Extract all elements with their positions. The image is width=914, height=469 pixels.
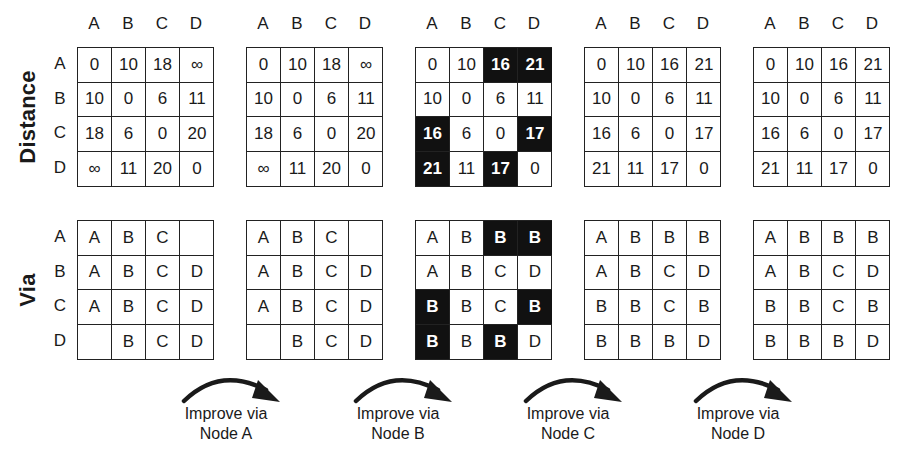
- via-cell: B: [687, 290, 721, 325]
- distance-cell: 10: [754, 83, 788, 118]
- via-cell: C: [146, 221, 180, 256]
- distance-cell: 6: [315, 83, 349, 118]
- curved-arrow-icon: [352, 368, 462, 408]
- distance-cell: 11: [450, 152, 484, 187]
- via-cell: A: [416, 221, 450, 256]
- via-matrix-stage-2: ABCABCDABCDBCD: [246, 220, 383, 360]
- step-label-line1: Improve via: [338, 404, 458, 424]
- via-cell: B: [281, 325, 315, 360]
- curved-arrow-icon: [522, 368, 632, 408]
- distance-cell: 17: [822, 152, 856, 187]
- column-header: D: [179, 14, 213, 34]
- column-header: B: [787, 14, 821, 34]
- column-header: A: [246, 14, 280, 34]
- distance-cell: 6: [146, 83, 180, 118]
- curved-arrow-icon: [180, 368, 290, 408]
- via-section-label: Via: [15, 230, 41, 350]
- dist-row-header: C: [50, 123, 70, 143]
- distance-cell: 11: [180, 83, 214, 118]
- distance-cell: 0: [180, 152, 214, 187]
- via-cell: B: [112, 256, 146, 291]
- via-cell: A: [754, 221, 788, 256]
- distance-cell: 6: [450, 117, 484, 152]
- column-header: B: [111, 14, 145, 34]
- via-cell: A: [754, 256, 788, 291]
- via-matrix-stage-1: ABCABCDABCDBCD: [77, 220, 214, 360]
- via-cell: B: [450, 221, 484, 256]
- via-cell: B: [450, 256, 484, 291]
- via-cell: B: [416, 325, 450, 360]
- via-cell: C: [484, 256, 518, 291]
- via-cell: B: [754, 325, 788, 360]
- via-cell: B: [788, 290, 822, 325]
- distance-cell: 0: [281, 83, 315, 118]
- distance-cell: 10: [416, 83, 450, 118]
- distance-cell: 20: [146, 152, 180, 187]
- via-cell: B: [112, 221, 146, 256]
- via-cell: [349, 221, 383, 256]
- via-cell: D: [518, 325, 552, 360]
- via-cell: B: [112, 290, 146, 325]
- distance-cell: 10: [78, 83, 112, 118]
- via-row-header: B: [50, 262, 70, 282]
- distance-cell: 6: [822, 83, 856, 118]
- column-header: D: [686, 14, 720, 34]
- via-cell: B: [687, 221, 721, 256]
- via-cell: B: [822, 325, 856, 360]
- via-cell: B: [484, 221, 518, 256]
- column-header: C: [314, 14, 348, 34]
- distance-cell: 16: [754, 117, 788, 152]
- distance-cell: 17: [856, 117, 890, 152]
- distance-cell: 6: [484, 83, 518, 118]
- via-cell: B: [788, 221, 822, 256]
- distance-matrix-stage-3: 01016211006111660172111170: [415, 47, 552, 187]
- distance-cell: ∞: [180, 48, 214, 83]
- curved-arrow-icon: [692, 368, 802, 408]
- distance-cell: 11: [619, 152, 653, 187]
- via-cell: B: [653, 325, 687, 360]
- via-cell: B: [822, 221, 856, 256]
- via-cell: D: [687, 325, 721, 360]
- step-label-line1: Improve via: [508, 404, 628, 424]
- via-cell: D: [856, 256, 890, 291]
- column-header: C: [145, 14, 179, 34]
- distance-cell: 21: [754, 152, 788, 187]
- via-cell: A: [78, 221, 112, 256]
- distance-cell: 10: [619, 48, 653, 83]
- distance-cell: 0: [822, 117, 856, 152]
- via-cell: D: [518, 256, 552, 291]
- distance-cell: 16: [653, 48, 687, 83]
- via-cell: B: [518, 221, 552, 256]
- distance-cell: 16: [416, 117, 450, 152]
- distance-cell: 0: [112, 83, 146, 118]
- step-label: Improve viaNode A: [166, 404, 286, 444]
- via-cell: C: [484, 290, 518, 325]
- via-cell: C: [315, 221, 349, 256]
- via-cell: B: [281, 256, 315, 291]
- column-header: B: [449, 14, 483, 34]
- distance-cell: 11: [349, 83, 383, 118]
- via-row-header: D: [50, 331, 70, 351]
- via-cell: C: [315, 290, 349, 325]
- distance-cell: 0: [754, 48, 788, 83]
- column-header: D: [517, 14, 551, 34]
- dist-row-header: D: [50, 158, 70, 178]
- distance-matrix-stage-1: 01018∞100611186020∞11200: [77, 47, 214, 187]
- via-cell: D: [349, 256, 383, 291]
- column-header: D: [855, 14, 889, 34]
- distance-matrix-stage-4: 01016211006111660172111170: [584, 47, 721, 187]
- via-matrix-stage-3: ABBBABCDBBCBBBBD: [415, 220, 552, 360]
- distance-cell: 0: [518, 152, 552, 187]
- via-cell: B: [619, 256, 653, 291]
- distance-cell: 11: [687, 83, 721, 118]
- distance-cell: 0: [247, 48, 281, 83]
- dist-row-header: B: [50, 89, 70, 109]
- via-cell: C: [653, 290, 687, 325]
- distance-cell: 0: [315, 117, 349, 152]
- via-cell: A: [78, 290, 112, 325]
- via-cell: B: [585, 290, 619, 325]
- via-row-header: A: [50, 227, 70, 247]
- via-cell: B: [619, 290, 653, 325]
- distance-cell: 10: [585, 83, 619, 118]
- via-cell: B: [112, 325, 146, 360]
